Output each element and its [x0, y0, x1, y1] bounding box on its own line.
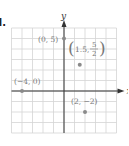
point-label-0-5: (0, 5) — [38, 35, 58, 44]
data-point — [83, 110, 87, 114]
x-axis-label: x — [127, 86, 129, 96]
paren-right: ) — [99, 38, 106, 58]
data-point — [78, 63, 82, 67]
data-point — [62, 37, 66, 41]
point-label-1.5: 1.5, — [75, 45, 89, 54]
point-label-neg4-0: (−4, 0) — [14, 77, 41, 86]
y-axis-label: y — [60, 11, 67, 21]
coordinate-plane: xy(0, 5)(−4, 0)(2, −2)(1.5,52) — [0, 0, 128, 146]
x-axis-arrow-icon — [118, 89, 125, 94]
y-axis-arrow-icon — [62, 20, 67, 27]
point-label-2-neg2: (2, −2) — [71, 97, 98, 106]
paren-left: ( — [68, 38, 75, 58]
fraction-denominator: 2 — [92, 50, 96, 58]
fraction-numerator: 5 — [92, 41, 96, 49]
data-point — [20, 89, 24, 93]
